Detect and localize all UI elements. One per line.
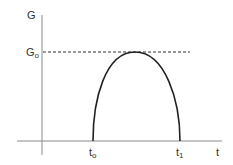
t1-label-sub: 1 <box>179 151 183 160</box>
curve <box>93 52 180 141</box>
g0-label-sub: o <box>35 51 39 60</box>
y-axis-label-text: G <box>27 9 36 21</box>
x-axis-label-text: t <box>216 146 219 158</box>
x-axis-label: t <box>216 147 219 158</box>
t0-label: to <box>89 147 97 160</box>
t0-label-sub: o <box>92 151 96 160</box>
plot-area <box>0 0 233 165</box>
g0-label: Go <box>26 47 39 60</box>
y-axis-label: G <box>27 10 36 21</box>
g0-label-main: G <box>26 46 35 58</box>
diagram: G Go to t1 t <box>0 0 233 165</box>
t1-label: t1 <box>176 147 184 160</box>
